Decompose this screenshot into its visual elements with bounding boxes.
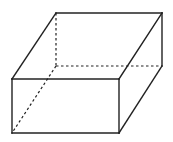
- visible-edge-front_top_right-to-back_top_right: [119, 13, 162, 79]
- visible-edge-front_bottom_right-to-back_bottom_right: [119, 66, 162, 133]
- cuboid-diagram: [0, 0, 173, 142]
- hidden-edge-back_bottom_left-to-front_bottom_left: [12, 66, 56, 133]
- visible-edges: [12, 13, 162, 133]
- visible-edge-front_top_left-to-back_top_left: [12, 13, 56, 79]
- hidden-edges: [12, 13, 162, 133]
